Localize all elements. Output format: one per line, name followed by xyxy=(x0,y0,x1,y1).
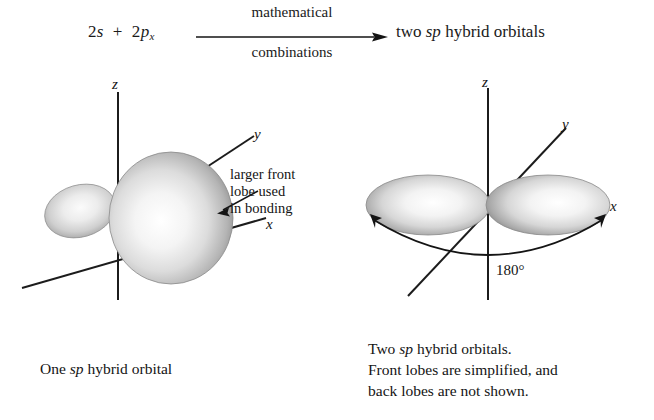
caption-left-prefix: One xyxy=(40,360,70,377)
orbital-illustration-right xyxy=(330,78,650,300)
reactant-2p-subscript: x xyxy=(149,30,154,42)
arrow-label-below: combinations xyxy=(212,44,372,61)
equation-reactants: 2s + 2px xyxy=(88,22,155,42)
caption-right-line-3: back lobes are not shown. xyxy=(368,380,558,401)
caption-left-orbital-type: sp xyxy=(70,360,84,377)
reactant-2s-orbital: s xyxy=(97,22,104,41)
annotation-line-3: in bonding xyxy=(230,200,295,217)
y-axis-label-right: y xyxy=(562,116,569,133)
front-lobe-annotation: larger front lobe used in bonding xyxy=(230,166,295,217)
x-axis-label-left: x xyxy=(266,216,273,233)
reaction-arrow-icon xyxy=(196,30,388,44)
product-orbital-type: sp xyxy=(426,22,441,41)
caption-right-orbital-type: sp xyxy=(399,340,413,357)
reactant-2p-coefficient: 2 xyxy=(132,22,141,41)
caption-left-suffix: hybrid orbital xyxy=(84,360,173,377)
equation-products: two sp hybrid orbitals xyxy=(396,22,545,42)
x-axis-label-right: x xyxy=(610,198,617,215)
caption-right-line-1: Two sp hybrid orbitals. xyxy=(368,338,558,359)
angle-value-label: 180° xyxy=(496,262,525,279)
arrow-label-above: mathematical xyxy=(212,4,372,21)
z-axis-label-right: z xyxy=(482,74,488,91)
y-axis-label-left: y xyxy=(254,126,261,143)
one-sp-orbital-diagram: z y x larger front lobe used in bonding xyxy=(8,78,328,300)
two-sp-orbitals-diagram: z y x 180° xyxy=(330,78,650,300)
equation-plus-sign: + xyxy=(113,22,123,41)
annotation-line-2: lobe used xyxy=(230,183,295,200)
caption-right-prefix: Two xyxy=(368,340,399,357)
reactant-2s-coefficient: 2 xyxy=(88,22,97,41)
product-suffix: hybrid orbitals xyxy=(441,22,545,41)
figure-canvas: 2s + 2px mathematical combinations two s… xyxy=(0,0,654,420)
product-prefix: two xyxy=(396,22,426,41)
caption-right-suffix: hybrid orbitals. xyxy=(413,340,512,357)
caption-right: Two sp hybrid orbitals. Front lobes are … xyxy=(368,338,558,401)
annotation-line-1: larger front xyxy=(230,166,295,183)
reaction-equation: 2s + 2px mathematical combinations two s… xyxy=(0,8,654,66)
caption-left: One sp hybrid orbital xyxy=(40,358,172,379)
z-axis-label-left: z xyxy=(112,76,118,93)
front-lobe-large xyxy=(109,152,233,284)
caption-right-line-2: Front lobes are simplified, and xyxy=(368,359,558,380)
